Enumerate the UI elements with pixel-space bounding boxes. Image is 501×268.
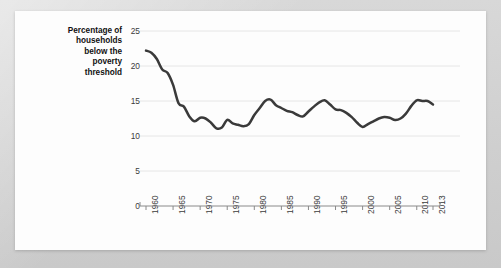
line-chart-plot <box>0 0 501 268</box>
axis-lines <box>140 202 440 206</box>
x-axis-ticks <box>146 206 433 210</box>
gridlines <box>140 31 460 171</box>
data-series-line <box>146 51 433 129</box>
